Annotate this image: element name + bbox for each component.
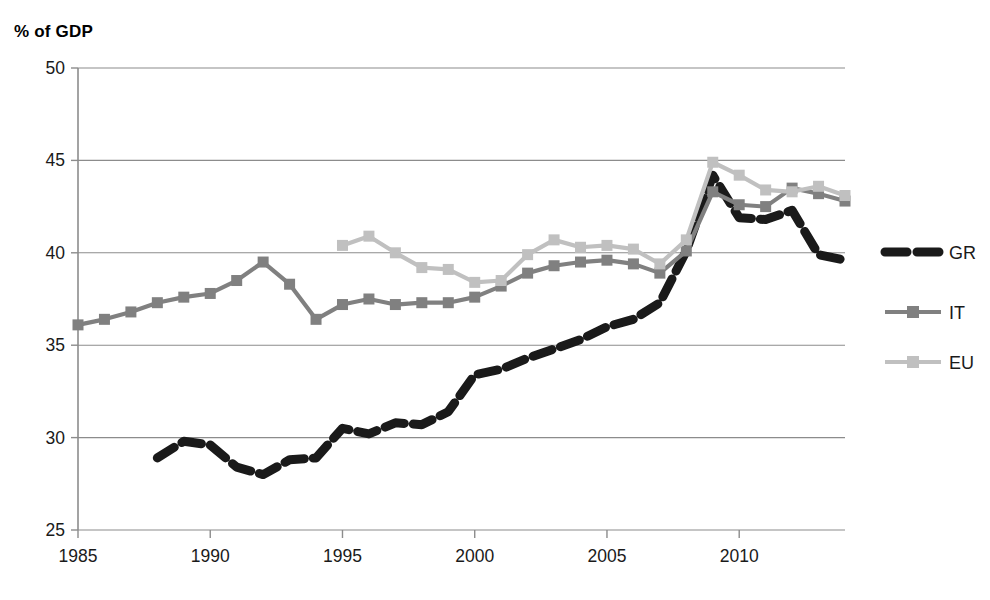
data-point-marker [628, 258, 639, 269]
x-tick-label: 1995 [323, 546, 362, 566]
data-point-marker [390, 247, 401, 258]
data-point-marker [734, 170, 745, 181]
data-series-group [73, 157, 851, 475]
legend-label-eu: EU [949, 353, 974, 373]
series-line-gr [157, 175, 845, 474]
data-point-marker [390, 299, 401, 310]
data-point-marker [284, 279, 295, 290]
data-point-marker [337, 240, 348, 251]
data-point-marker [469, 292, 480, 303]
data-point-marker [549, 260, 560, 271]
data-point-marker [443, 297, 454, 308]
y-tick-label: 45 [46, 150, 65, 170]
data-point-marker [575, 242, 586, 253]
data-point-marker [575, 257, 586, 268]
data-point-marker [813, 181, 824, 192]
x-tick-label: 2010 [720, 546, 759, 566]
data-point-marker [681, 245, 692, 256]
data-point-marker [840, 190, 851, 201]
x-tick-label: 1985 [59, 546, 98, 566]
data-point-marker [178, 292, 189, 303]
data-point-marker [522, 268, 533, 279]
data-point-marker [601, 240, 612, 251]
data-point-marker [707, 157, 718, 168]
y-tick-label: 50 [46, 58, 66, 78]
data-point-marker [416, 297, 427, 308]
data-point-marker [125, 306, 136, 317]
x-tick-label: 2000 [455, 546, 494, 566]
chart-container: % of GDP 253035404550 198519901995200020… [0, 0, 990, 600]
data-point-marker [231, 275, 242, 286]
data-point-marker [311, 314, 322, 325]
data-point-marker [337, 299, 348, 310]
data-point-marker [469, 277, 480, 288]
data-point-marker [787, 186, 798, 197]
data-point-marker [363, 294, 374, 305]
y-tick-label: 30 [46, 428, 66, 448]
data-point-marker [760, 184, 771, 195]
y-tick-label: 40 [46, 243, 66, 263]
legend-label-gr: GR [949, 243, 976, 263]
data-point-marker [152, 297, 163, 308]
data-point-marker [601, 255, 612, 266]
data-point-marker [416, 262, 427, 273]
legend-marker-eu [907, 356, 919, 368]
data-point-marker [734, 199, 745, 210]
data-point-marker [654, 258, 665, 269]
data-point-marker [363, 231, 374, 242]
x-tick-label: 1990 [191, 546, 230, 566]
y-axis-ticks: 253035404550 [46, 58, 78, 540]
data-point-marker [681, 234, 692, 245]
x-tick-label: 2005 [587, 546, 626, 566]
series-line-it [78, 188, 845, 325]
data-point-marker [205, 288, 216, 299]
data-point-marker [707, 186, 718, 197]
legend-label-it: IT [949, 303, 965, 323]
data-point-marker [258, 257, 269, 268]
data-point-marker [549, 234, 560, 245]
data-point-marker [99, 314, 110, 325]
legend: GRITEU [885, 243, 976, 373]
y-tick-label: 25 [46, 520, 65, 540]
data-point-marker [522, 249, 533, 260]
data-point-marker [496, 275, 507, 286]
x-axis-ticks: 198519901995200020052010 [59, 530, 759, 566]
y-tick-label: 35 [46, 335, 65, 355]
data-point-marker [628, 244, 639, 255]
data-point-marker [760, 201, 771, 212]
data-point-marker [443, 264, 454, 275]
data-point-marker [73, 319, 84, 330]
legend-marker-it [907, 306, 919, 318]
line-chart: 253035404550 198519901995200020052010 GR… [0, 0, 990, 600]
y-axis-title: % of GDP [14, 22, 93, 42]
